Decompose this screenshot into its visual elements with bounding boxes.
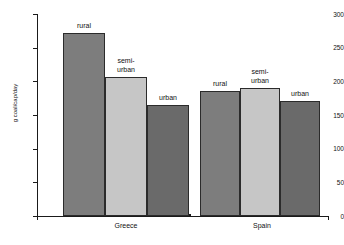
bar-spain-semi-urban [240,88,280,216]
group-label-spain: Spain [232,222,292,229]
y-axis-tick-label: 150 [318,112,344,119]
x-axis-mid-tick [189,214,191,216]
y-axis-tick-label: 300 [318,11,344,18]
y-axis-tick-label: 50 [318,179,344,186]
bar-label-greece-urban: urban [141,94,195,103]
y-axis-tick-label: 250 [318,44,344,51]
bar-spain-rural [200,91,240,216]
y-axis-tick [33,48,38,49]
y-axis-tick [33,14,38,15]
y-axis-tick [33,149,38,150]
x-axis-line [37,216,328,217]
y-axis-tick [33,182,38,183]
bar-spain-urban [280,101,320,216]
x-axis-end-tick [328,216,329,220]
y-axis-tick-label: 200 [318,78,344,85]
bar-greece-urban [147,105,189,216]
bar-label-spain-semi-urban: semi- urban [234,68,286,85]
bar-label-greece-rural: rural [57,22,111,31]
x-axis-start-tick [37,216,38,220]
y-axis-tick-label: 100 [318,145,344,152]
bar-chart: g coal/cap/day 300250200150100500 rurals… [0,0,344,245]
y-axis-tick [33,81,38,82]
y-axis-tick [33,115,38,116]
group-label-greece: Greece [96,222,156,229]
bar-label-spain-urban: urban [274,90,326,99]
bar-label-greece-semi-urban: semi- urban [99,57,153,74]
y-axis-title: g coal/cap/day [12,68,18,138]
